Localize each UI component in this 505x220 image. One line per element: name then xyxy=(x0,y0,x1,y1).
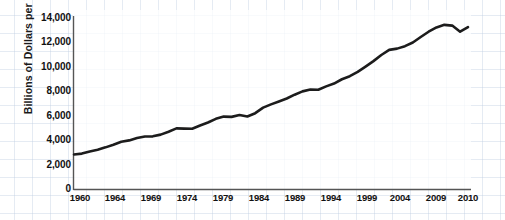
source-note-container: SOURCE: Economic Report of the President… xyxy=(478,18,502,204)
line-chart-plot xyxy=(0,0,505,220)
gdp-data-line xyxy=(74,25,468,155)
